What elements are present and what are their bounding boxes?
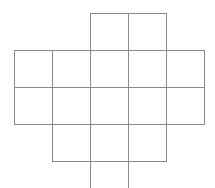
grid-cell — [166, 87, 205, 125]
grid-cell — [14, 87, 53, 125]
grid-cell — [52, 87, 91, 125]
grid-cell — [128, 87, 167, 125]
grid-cell — [128, 13, 167, 51]
grid-cell — [52, 50, 91, 88]
grid-cell — [90, 161, 129, 188]
grid-cell — [90, 87, 129, 125]
grid-cell — [90, 50, 129, 88]
grid-cell — [52, 124, 91, 162]
grid-cell — [90, 124, 129, 162]
grid-cell — [128, 124, 167, 162]
grid-cell — [14, 50, 53, 88]
grid-cell — [90, 13, 129, 51]
grid-diagram — [0, 0, 215, 188]
grid-cell — [166, 50, 205, 88]
grid-cell — [128, 50, 167, 88]
